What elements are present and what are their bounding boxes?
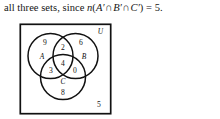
universal-set-label: U: [98, 27, 104, 36]
region-value-b-only: 6: [79, 38, 83, 47]
set-label-b: B: [82, 52, 87, 61]
set-label-a: A: [39, 52, 45, 61]
prose-line: all three sets, since n(A′∩B′∩C′) = 5.: [4, 1, 218, 15]
region-value-a-and-b-and-c: 4: [61, 59, 65, 68]
math-intersection-1: ∩: [105, 2, 113, 13]
set-label-c: C: [61, 77, 66, 86]
region-value-a-only: 9: [43, 38, 47, 47]
region-value-outside-all: 5: [97, 100, 101, 109]
region-value-a-and-c-only: 3: [49, 66, 53, 75]
math-equals-sign: =: [143, 2, 154, 13]
region-value-c-only: 8: [61, 88, 65, 97]
region-value-b-and-c-only: 0: [73, 66, 77, 75]
prose-lead-text: all three sets, since: [4, 2, 87, 13]
prose-period: .: [160, 2, 163, 13]
venn-diagram-figure: U A B C 9 6 2 4 3 0 8 5: [19, 23, 112, 115]
region-value-a-and-b-only: 2: [61, 43, 65, 52]
